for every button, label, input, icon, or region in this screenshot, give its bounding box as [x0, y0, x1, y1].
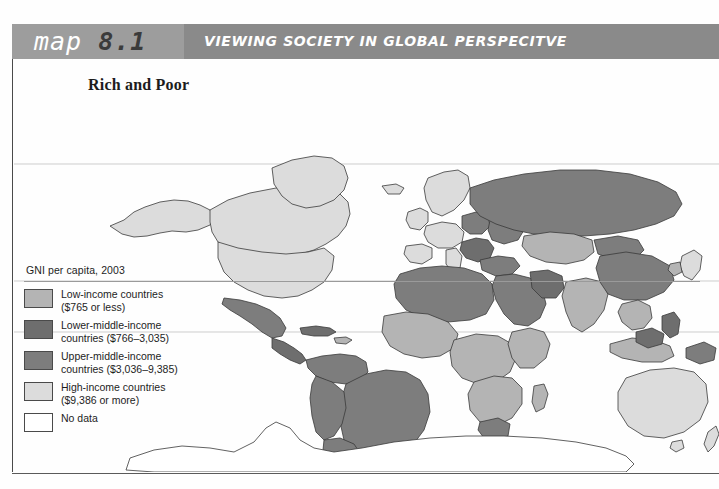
region-china — [596, 252, 674, 300]
legend-label-high-income: High-income countries ($9,386 or more) — [61, 381, 165, 406]
region-scandinavia — [424, 170, 470, 216]
map-header-band: map 8.1 VIEWING SOCIETY IN GLOBAL PERSPE… — [12, 24, 719, 59]
legend-label-low-income: Low-income countries ($765 or less) — [61, 288, 163, 313]
legend-item-lower-middle-income: Lower-middle-income countries ($766–3,03… — [24, 319, 178, 344]
region-australia — [618, 368, 708, 438]
region-papua-new-guinea — [686, 342, 716, 364]
header-subtitle: VIEWING SOCIETY IN GLOBAL PERSPECITVE — [204, 33, 567, 49]
legend-label-lower-middle-income: Lower-middle-income countries ($766–3,03… — [61, 319, 169, 344]
region-iberia — [404, 244, 432, 264]
region-central-america — [272, 338, 306, 364]
map-label-number: 8.1 — [98, 27, 146, 56]
region-peru-bolivia — [310, 376, 346, 440]
legend-item-upper-middle-income: Upper-middle-income countries ($3,036–9,… — [24, 350, 178, 375]
map-label-word: map — [34, 27, 82, 56]
legend-swatch-low-income — [24, 289, 53, 308]
region-philippines — [662, 312, 680, 338]
region-japan — [680, 250, 702, 280]
legend-label-no-data: No data — [61, 412, 98, 425]
region-india — [562, 278, 608, 332]
legend-swatch-upper-middle-income — [24, 351, 53, 370]
region-kazakhstan-central-asia — [522, 232, 594, 264]
region-southeast-asia — [618, 300, 652, 330]
legend-item-high-income: High-income countries ($9,386 or more) — [24, 381, 178, 406]
page-frame-bottom-rule — [12, 473, 719, 474]
legend-item-list: Low-income countries ($765 or less) Lowe… — [24, 288, 178, 438]
region-tasmania — [670, 440, 684, 452]
legend-swatch-lower-middle-income — [24, 320, 53, 339]
region-uk-ireland — [406, 208, 428, 230]
region-iceland — [382, 184, 404, 194]
page-frame-left-rule — [12, 59, 13, 472]
region-alaska — [110, 200, 215, 237]
map-legend: GNI per capita, 2003 — [24, 264, 204, 279]
legend-divider-rule — [24, 281, 700, 282]
region-madagascar — [532, 384, 548, 412]
region-new-zealand — [704, 426, 719, 452]
legend-title: GNI per capita, 2003 — [26, 264, 204, 276]
region-turkey — [480, 256, 520, 276]
map-label: map 8.1 — [34, 27, 146, 56]
region-caribbean-cuba — [300, 326, 336, 336]
region-france-germany — [424, 222, 464, 248]
region-haiti-dominican — [334, 337, 352, 344]
region-central-africa — [450, 334, 516, 384]
legend-item-low-income: Low-income countries ($765 or less) — [24, 288, 178, 313]
legend-swatch-no-data — [24, 413, 53, 432]
legend-swatch-high-income — [24, 382, 53, 401]
region-russia — [470, 170, 682, 236]
legend-label-upper-middle-income: Upper-middle-income countries ($3,036–9,… — [61, 350, 178, 375]
legend-item-no-data: No data — [24, 412, 178, 432]
textbook-page: map 8.1 VIEWING SOCIETY IN GLOBAL PERSPE… — [0, 0, 719, 489]
